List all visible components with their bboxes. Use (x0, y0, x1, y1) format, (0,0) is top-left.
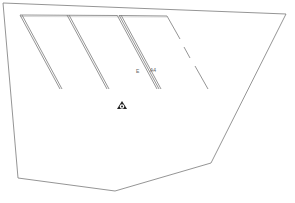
label-right: A4 (150, 67, 156, 73)
label-left: E (136, 68, 140, 74)
inner-top-line (20, 15, 117, 16)
cad-drawing-canvas: E A4 (0, 0, 295, 203)
north-marker-icon (117, 101, 127, 109)
stripe-3 (117, 15, 161, 89)
stripe-2 (67, 15, 109, 89)
inner-top-line-2 (119, 16, 167, 17)
inner-top-line-shadow (20, 17, 167, 18)
dashed-line (167, 16, 208, 89)
site-outline (3, 3, 286, 191)
stripe-1 (20, 15, 62, 89)
